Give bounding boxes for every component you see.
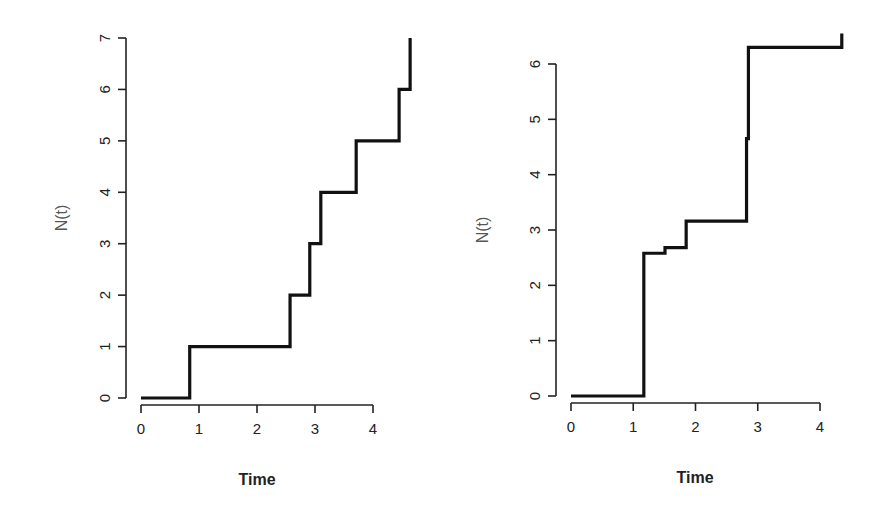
x-tick-label: 1 [195,420,203,437]
y-tick-label: 4 [526,170,543,178]
y-tick-label: 2 [96,291,113,299]
y-tick-label: 6 [96,85,113,93]
x-tick-label: 4 [816,418,824,435]
left-y-axis-title: N(t) [53,205,70,232]
x-tick-label: 3 [311,420,319,437]
y-tick-label: 2 [526,281,543,289]
y-tick-label: 6 [526,60,543,68]
figure: 01234567 01234 Time N(t) 0123456 01234 T… [0,0,877,510]
left-x-axis-title: Time [238,471,275,488]
y-tick-label: 3 [526,226,543,234]
x-tick-label: 4 [369,420,377,437]
left-y-axis: 01234567 [96,34,126,402]
y-tick-label: 4 [96,188,113,196]
right-panel: 0123456 01234 Time N(t) [474,34,842,486]
y-tick-label: 3 [96,240,113,248]
step-function-charts: 01234567 01234 Time N(t) 0123456 01234 T… [0,0,877,510]
left-panel: 01234567 01234 Time N(t) [53,34,410,488]
right-x-axis: 01234 [567,403,824,435]
left-step-series [141,38,410,398]
right-x-axis-title: Time [676,469,713,486]
y-tick-label: 1 [96,342,113,350]
x-tick-label: 3 [754,418,762,435]
y-tick-label: 0 [96,394,113,402]
x-tick-label: 0 [567,418,575,435]
y-tick-label: 1 [526,336,543,344]
right-y-axis-title: N(t) [474,217,491,244]
y-tick-label: 5 [96,137,113,145]
x-tick-label: 2 [691,418,699,435]
y-tick-label: 5 [526,115,543,123]
x-tick-label: 0 [137,420,145,437]
right-step-series [571,34,842,396]
x-tick-label: 2 [253,420,261,437]
left-x-axis: 01234 [137,405,377,437]
y-tick-label: 7 [96,34,113,42]
right-y-axis: 0123456 [526,60,556,400]
x-tick-label: 1 [629,418,637,435]
y-tick-label: 0 [526,392,543,400]
